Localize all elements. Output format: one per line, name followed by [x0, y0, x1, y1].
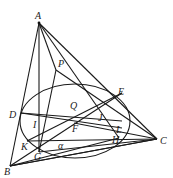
label-p: P	[57, 58, 64, 69]
vertex-a-dot	[38, 22, 41, 25]
label-h: H	[111, 134, 120, 145]
label-c: C	[160, 135, 167, 146]
label-g: G	[34, 151, 41, 162]
label-f: F	[71, 123, 79, 134]
label-i: I	[32, 119, 37, 130]
label-alpha: α	[58, 140, 64, 151]
label-b: B	[4, 166, 10, 177]
label-k: K	[20, 141, 29, 152]
label-q: Q	[70, 100, 78, 111]
label-a: A	[34, 10, 42, 21]
label-e: E	[117, 86, 124, 97]
label-j: J	[98, 112, 103, 123]
geometry-diagram: A B C P Q E D I F J L K G H α	[0, 0, 173, 178]
label-d: D	[8, 109, 17, 120]
